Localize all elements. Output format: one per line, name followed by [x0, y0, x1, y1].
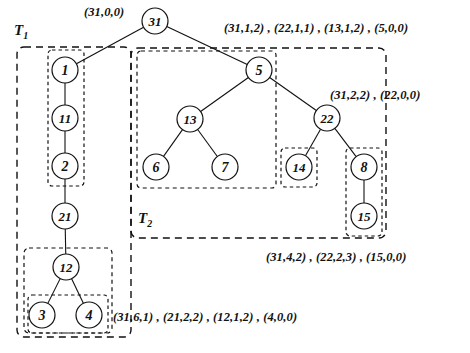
node-label: 21 [58, 209, 72, 224]
label-t1: T1 [14, 22, 28, 41]
tree-node-1: 1 [52, 57, 78, 83]
ann-bottom-left: (31,6,1) , (21,2,2) , (12,1,2) , (4,0,0) [113, 310, 297, 325]
tree-edge [305, 129, 320, 155]
node-label: 11 [59, 111, 71, 126]
tree-edge [335, 128, 356, 156]
tree-node-11: 11 [52, 105, 78, 131]
tree-node-5: 5 [246, 57, 272, 83]
tree-name-letter: T [14, 22, 23, 38]
tree-edge [76, 27, 143, 64]
node-label: 22 [320, 111, 335, 126]
tree-name-subscript: 1 [23, 30, 28, 41]
tree-node-14: 14 [286, 154, 312, 180]
diagram-canvas: 311112211234513672214815 [0, 0, 470, 353]
node-label: 6 [153, 160, 160, 175]
tree-edge [48, 279, 60, 304]
tree-node-6: 6 [143, 154, 169, 180]
tree-node-4: 4 [76, 302, 102, 328]
tree-node-31: 31 [142, 8, 168, 34]
tree-edge [201, 78, 249, 112]
node-label: 4 [85, 308, 93, 323]
ann-n22: (31,2,2) , (22,0,0) [330, 88, 420, 103]
tree-edge [72, 279, 84, 304]
tree-node-21: 21 [52, 203, 78, 229]
node-label: 14 [293, 160, 307, 175]
node-label: 12 [60, 260, 74, 275]
node-label: 1 [62, 63, 69, 78]
tree-node-8: 8 [351, 154, 377, 180]
box-t1-outer [17, 47, 131, 337]
tree-edge [164, 130, 183, 157]
node-label: 3 [38, 308, 46, 323]
tree-name-letter: T [138, 210, 147, 226]
ann-n15: (31,4,2) , (22,2,3) , (15,0,0) [266, 250, 406, 265]
tree-nodes-group: 311112211234513672214815 [29, 8, 377, 328]
tree-edge [198, 130, 218, 157]
node-label: 2 [61, 159, 69, 174]
tree-node-22: 22 [314, 105, 340, 131]
tree-node-12: 12 [53, 254, 79, 280]
node-label: 5 [256, 63, 263, 78]
tree-node-13: 13 [177, 106, 203, 132]
label-t2: T2 [138, 210, 152, 229]
tree-node-3: 3 [29, 302, 55, 328]
ann-t2-top: (31,1,2) , (22,1,1) , (13,1,2) , (5,0,0) [224, 21, 408, 36]
node-label: 31 [148, 14, 162, 29]
node-label: 7 [222, 160, 230, 175]
node-label: 13 [184, 112, 198, 127]
node-label: 15 [358, 209, 372, 224]
tree-node-2: 2 [52, 153, 78, 179]
tree-edge [270, 77, 317, 110]
tree-node-7: 7 [212, 154, 238, 180]
tree-name-subscript: 2 [147, 218, 152, 229]
tree-node-15: 15 [351, 203, 377, 229]
tree-decomposition-figure: 311112211234513672214815 T1T2 (31,0,0)(3… [0, 0, 470, 353]
node-label: 8 [361, 160, 368, 175]
ann-root: (31,0,0) [84, 5, 124, 20]
